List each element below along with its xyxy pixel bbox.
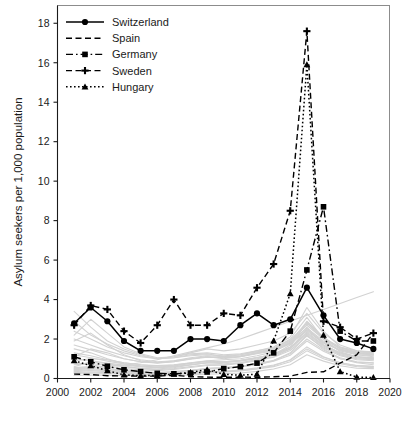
- y-tick-label: 6: [44, 254, 50, 266]
- data-point-marker: [287, 316, 293, 322]
- x-tick-label: 2012: [245, 386, 269, 398]
- data-point-marker: [238, 364, 244, 370]
- data-point-marker: [104, 318, 110, 324]
- y-tick-label: 16: [38, 57, 50, 69]
- data-point-marker: [339, 324, 341, 331]
- data-point-marker: [306, 28, 308, 35]
- data-point-marker: [82, 19, 88, 25]
- data-point-marker: [138, 348, 144, 354]
- data-point-marker: [204, 336, 210, 342]
- legend-label: Spain: [112, 32, 140, 44]
- data-point-marker: [156, 322, 158, 329]
- legend-label: Hungary: [112, 81, 154, 93]
- x-tick-label: 2002: [79, 386, 103, 398]
- x-tick-label: 2000: [46, 386, 70, 398]
- data-point-marker: [90, 302, 92, 309]
- y-tick-label: 2: [44, 333, 50, 345]
- data-point-marker: [187, 336, 193, 342]
- x-tick-label: 2008: [179, 386, 203, 398]
- y-tick-label: 0: [44, 372, 50, 384]
- x-tick-label: 2004: [112, 386, 136, 398]
- data-point-marker: [321, 204, 327, 210]
- data-point-marker: [254, 360, 260, 366]
- data-point-marker: [256, 284, 258, 291]
- data-point-marker: [121, 338, 127, 344]
- y-tick-label: 14: [38, 96, 50, 108]
- data-point-marker: [140, 339, 142, 346]
- data-point-marker: [372, 330, 374, 337]
- y-tick-label: 10: [38, 175, 50, 187]
- legend-label: Switzerland: [112, 16, 169, 28]
- data-point-marker: [221, 338, 227, 344]
- y-axis-title: Asylum seekers per 1,000 population: [12, 97, 24, 286]
- data-point-marker: [73, 322, 75, 329]
- y-tick-label: 12: [38, 135, 50, 147]
- data-point-marker: [154, 348, 160, 354]
- data-point-marker: [239, 312, 241, 319]
- x-tick-label: 2010: [212, 386, 236, 398]
- data-point-marker: [171, 348, 177, 354]
- data-point-marker: [371, 338, 377, 344]
- data-point-marker: [173, 296, 175, 303]
- data-point-marker: [370, 346, 376, 352]
- x-tick-label: 2018: [345, 386, 369, 398]
- data-point-marker: [273, 260, 275, 267]
- x-tick-label: 2016: [312, 386, 336, 398]
- x-tick-label: 2014: [279, 386, 303, 398]
- data-point-marker: [221, 366, 227, 372]
- asylum-seekers-line-chart: 1816141210864202000200220042006200820102…: [0, 0, 407, 422]
- data-point-marker: [123, 328, 125, 335]
- data-point-marker: [82, 52, 88, 58]
- data-point-marker: [287, 328, 293, 334]
- data-point-marker: [237, 322, 243, 328]
- data-point-marker: [271, 350, 277, 356]
- data-point-marker: [289, 207, 291, 214]
- data-point-marker: [84, 67, 86, 74]
- data-point-marker: [304, 267, 310, 273]
- data-point-marker: [223, 310, 225, 317]
- data-point-marker: [304, 285, 310, 291]
- chart-figure: 1816141210864202000200220042006200820102…: [0, 0, 407, 422]
- data-point-marker: [106, 306, 108, 313]
- x-tick-label: 2020: [378, 386, 402, 398]
- data-point-marker: [254, 310, 260, 316]
- data-point-marker: [206, 322, 208, 329]
- legend-label: Sweden: [112, 65, 152, 77]
- y-tick-label: 8: [44, 214, 50, 226]
- x-tick-label: 2006: [146, 386, 170, 398]
- legend-label: Germany: [112, 48, 158, 60]
- y-tick-label: 4: [44, 293, 50, 305]
- data-point-marker: [189, 322, 191, 329]
- data-point-marker: [337, 336, 343, 342]
- data-point-marker: [271, 322, 277, 328]
- y-tick-label: 18: [38, 17, 50, 29]
- data-point-marker: [356, 335, 358, 342]
